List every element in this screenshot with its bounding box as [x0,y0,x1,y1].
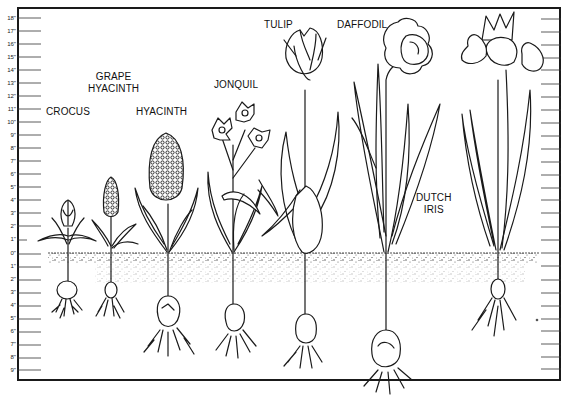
label-hyacinth: HYACINTH [136,106,187,118]
label-daffodil: DAFFODIL [337,19,387,31]
bulb-chart: 18" 17" 16" 15" 14" 13" 12" 11" 10" 9" 8… [0,0,566,397]
jonquil-plant [208,102,278,358]
label-tulip-line1: TULIP [264,19,293,31]
hyacinth-plant [135,133,198,356]
label-jonquil: JONQUIL [214,79,258,91]
label-dutch-iris: DUTCH IRIS [416,192,452,216]
illustration [0,0,566,397]
label-grape-hyacinth-line1: GRAPE [88,71,139,83]
grape-hyacinth-plant [92,177,138,318]
label-grape-hyacinth: GRAPE HYACINTH [88,71,139,95]
speck [536,319,539,322]
left-scale-ticks [17,18,41,370]
label-dutch-iris-line1: DUTCH [416,192,452,204]
label-crocus-line1: CROCUS [46,106,90,118]
label-tulip: TULIP [264,19,293,31]
label-daffodil-line1: DAFFODIL [337,19,387,31]
label-grape-hyacinth-line2: HYACINTH [88,83,139,95]
soil-layer [48,253,540,283]
label-dutch-iris-line2: IRIS [416,204,452,216]
dutch-iris-plant [461,12,543,336]
label-hyacinth-line1: HYACINTH [136,106,187,118]
label-jonquil-line1: JONQUIL [214,79,258,91]
right-scale-ticks [541,19,561,369]
label-crocus: CROCUS [46,106,90,118]
tulip-plant [262,28,339,368]
